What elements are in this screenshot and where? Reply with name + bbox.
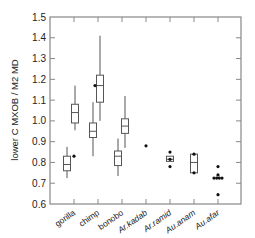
box-chimp bbox=[90, 102, 97, 156]
box-series bbox=[64, 36, 198, 178]
data-point-Au.afar bbox=[216, 193, 219, 196]
box-bonobo bbox=[115, 139, 122, 176]
data-point-Ar.ramid bbox=[168, 165, 171, 168]
y-tick-label: 0.8 bbox=[32, 157, 46, 168]
x-category-label: gorilla bbox=[53, 207, 78, 228]
box-gorilla bbox=[72, 86, 79, 131]
data-point-Au.anam bbox=[192, 153, 195, 156]
box-Au.anam bbox=[191, 154, 198, 173]
iqr-box bbox=[191, 154, 198, 173]
iqr-box bbox=[72, 104, 79, 123]
data-point-Au.afar bbox=[216, 173, 219, 176]
data-point-Au.anam bbox=[192, 171, 195, 174]
y-tick-label: 1.1 bbox=[32, 95, 46, 106]
data-point-Ar.kadab bbox=[144, 144, 147, 147]
data-point-Au.afar bbox=[220, 176, 223, 179]
data-point-Ar.ramid bbox=[168, 158, 171, 161]
y-tick-label: 1.2 bbox=[32, 74, 46, 85]
iqr-box bbox=[97, 75, 104, 102]
y-axis-ticks: 0.60.70.80.91.01.11.21.31.41.5 bbox=[32, 12, 241, 210]
x-axis-ticks: gorillachimpbonoboAr.kadabAr.ramidAu.ana… bbox=[53, 17, 222, 236]
data-point-chimp bbox=[93, 84, 96, 87]
y-tick-label: 1.0 bbox=[32, 115, 46, 126]
x-category-label: Au.afar bbox=[192, 207, 222, 232]
iqr-box bbox=[115, 151, 122, 166]
y-tick-label: 1.5 bbox=[32, 12, 46, 23]
data-points bbox=[72, 84, 223, 196]
data-point-gorilla bbox=[72, 155, 75, 158]
y-axis-title: lower C MXOB / M2 MD bbox=[9, 59, 20, 160]
iqr-box bbox=[64, 156, 71, 171]
box-bonobo bbox=[122, 96, 129, 148]
data-point-Ar.ramid bbox=[168, 150, 171, 153]
box-chimp bbox=[97, 36, 104, 121]
y-tick-label: 1.3 bbox=[32, 53, 46, 64]
y-tick-label: 1.4 bbox=[32, 32, 46, 43]
y-tick-label: 0.7 bbox=[32, 178, 46, 189]
box-plot-chart: 0.60.70.80.91.01.11.21.31.41.5 gorillach… bbox=[0, 0, 255, 238]
iqr-box bbox=[90, 123, 97, 138]
y-tick-label: 0.9 bbox=[32, 136, 46, 147]
y-tick-label: 0.6 bbox=[32, 199, 46, 210]
data-point-Au.afar bbox=[216, 165, 219, 168]
box-gorilla bbox=[64, 147, 71, 178]
